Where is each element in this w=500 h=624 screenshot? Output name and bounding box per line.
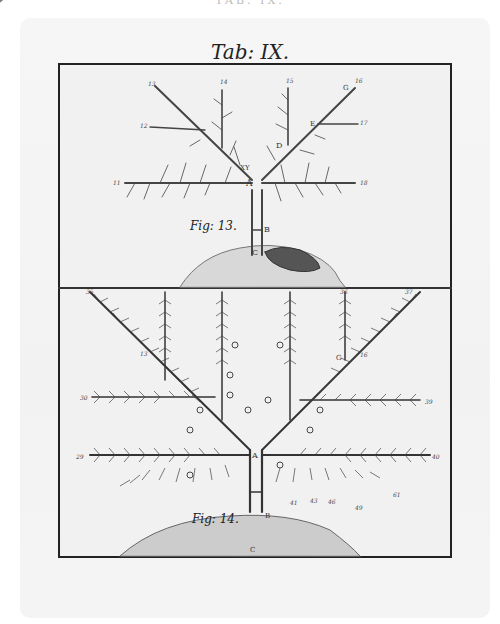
svg-text:40: 40	[431, 453, 440, 460]
svg-text:18: 18	[360, 179, 368, 186]
svg-text:13: 13	[140, 350, 148, 357]
svg-text:37: 37	[405, 288, 413, 295]
svg-text:A: A	[251, 451, 258, 460]
svg-text:C: C	[252, 248, 258, 257]
svg-text:D: D	[276, 141, 282, 150]
svg-text:G: G	[343, 84, 349, 92]
svg-text:A: A	[245, 178, 253, 188]
svg-text:14: 14	[220, 78, 228, 85]
svg-text:41: 41	[289, 499, 298, 506]
svg-text:G: G	[336, 354, 342, 362]
svg-text:11: 11	[113, 179, 121, 186]
svg-text:E: E	[310, 120, 315, 128]
figure-14-leaf-sprays	[94, 294, 426, 486]
svg-text:43: 43	[309, 497, 318, 504]
svg-text:15: 15	[286, 77, 294, 84]
svg-text:12: 12	[140, 122, 148, 129]
figure-14-foliage	[0, 0, 5, 5]
svg-text:36: 36	[340, 288, 348, 295]
figure-13-labels: 13 14 15 16 17 18 11 12 A B C D E G XY	[113, 77, 368, 257]
svg-text:46: 46	[327, 498, 336, 505]
svg-text:B: B	[265, 512, 270, 520]
svg-text:30: 30	[80, 394, 88, 401]
svg-text:49: 49	[354, 504, 363, 511]
svg-text:16: 16	[360, 351, 368, 358]
figure-13-tree	[125, 86, 358, 287]
plate-illustration: 13 14 15 16 17 18 11 12 A B C D E G XY F…	[0, 0, 500, 624]
svg-text:13: 13	[148, 80, 156, 87]
svg-text:61: 61	[393, 491, 401, 498]
svg-text:39: 39	[425, 398, 433, 405]
svg-text:29: 29	[75, 453, 84, 460]
figure-13-caption: Fig: 13.	[189, 219, 237, 233]
svg-text:XY: XY	[240, 164, 250, 172]
svg-text:17: 17	[360, 119, 368, 126]
figure-14-caption: Fig: 14.	[191, 512, 239, 526]
svg-text:C: C	[250, 546, 255, 554]
svg-text:B: B	[264, 225, 270, 234]
svg-text:16: 16	[355, 77, 363, 84]
svg-text:35: 35	[86, 288, 94, 295]
